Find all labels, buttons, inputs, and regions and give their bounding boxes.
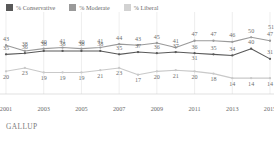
data-point: [193, 40, 195, 42]
legend-item-conservative[interactable]: % Conservative: [6, 4, 55, 11]
data-point: [99, 50, 101, 52]
x-axis-tick-2011: 2011: [188, 104, 200, 113]
data-label: 38: [41, 41, 47, 47]
data-point: [269, 40, 271, 42]
annotation-label: 51: [268, 24, 274, 30]
data-label: 50: [248, 28, 254, 34]
data-point: [137, 51, 139, 53]
data-label: 45: [154, 34, 160, 40]
data-label: 19: [60, 75, 66, 81]
data-label: 47: [267, 31, 273, 37]
data-point: [250, 48, 252, 50]
legend-label-conservative: % Conservative: [16, 4, 55, 11]
data-label: 34: [229, 46, 235, 52]
data-point: [212, 53, 214, 55]
data-point: [80, 50, 82, 52]
data-label: 36: [154, 44, 160, 50]
data-point: [61, 71, 63, 73]
data-point: [231, 41, 233, 43]
data-point: [80, 71, 82, 73]
data-point: [118, 53, 120, 55]
data-label: 23: [22, 70, 28, 76]
data-point: [269, 58, 271, 60]
x-axis-tick-2005: 2005: [75, 104, 87, 113]
data-point: [231, 54, 233, 56]
data-point: [43, 50, 45, 52]
data-label: 14: [267, 81, 273, 87]
data-label: 47: [210, 31, 216, 37]
data-point: [212, 40, 214, 42]
data-label: 14: [248, 81, 254, 87]
x-axis-tick-2015: 2015: [264, 104, 274, 113]
data-label: 36: [192, 44, 198, 50]
x-axis-tick-2013: 2013: [226, 104, 238, 113]
x-axis: 20012003200520072009201120132015: [0, 104, 274, 117]
data-label: 21: [97, 73, 103, 79]
annotation-label: 31: [192, 55, 198, 61]
data-label: 36: [22, 44, 28, 50]
data-point: [5, 53, 7, 55]
data-point: [5, 70, 7, 72]
data-label: 14: [229, 81, 235, 87]
data-point: [137, 74, 139, 76]
plot-area: 4338404140414443454147474650473536383838…: [0, 12, 274, 104]
data-point: [231, 77, 233, 79]
x-axis-tick-2001: 2001: [0, 104, 12, 113]
legend-swatch-conservative: [6, 4, 13, 11]
data-point: [80, 48, 82, 50]
data-label: 37: [135, 43, 141, 49]
data-label: 38: [60, 41, 66, 47]
data-label: 43: [135, 36, 141, 42]
data-label: 20: [3, 74, 9, 80]
data-label: 47: [192, 31, 198, 37]
data-point: [250, 77, 252, 79]
data-label: 23: [116, 70, 122, 76]
data-point: [156, 52, 158, 54]
data-label: 35: [210, 45, 216, 51]
data-label: 46: [229, 32, 235, 38]
data-label: 44: [116, 35, 122, 41]
data-point: [24, 50, 26, 52]
data-point: [24, 67, 26, 69]
data-label: 17: [135, 77, 141, 83]
data-label: 20: [154, 74, 160, 80]
x-axis-tick-2003: 2003: [38, 104, 50, 113]
legend-item-liberal[interactable]: % Liberal: [124, 4, 159, 11]
data-label: 43: [3, 36, 9, 42]
legend-item-moderate[interactable]: % Moderate: [69, 4, 109, 11]
legend-swatch-moderate: [69, 4, 76, 11]
source-attribution: GALLUP: [6, 122, 38, 131]
x-axis-tick-2009: 2009: [151, 104, 163, 113]
x-axis-tick-2007: 2007: [113, 104, 125, 113]
data-point: [99, 69, 101, 71]
data-point: [269, 77, 271, 79]
data-point: [175, 69, 177, 71]
data-point: [250, 36, 252, 38]
legend-swatch-liberal: [124, 4, 131, 11]
data-point: [118, 67, 120, 69]
data-label: 38: [78, 41, 84, 47]
data-point: [24, 52, 26, 54]
data-label: 38: [97, 41, 103, 47]
ideology-trend-chart: % Conservative % Moderate % Liberal 4338…: [0, 0, 274, 141]
data-label: 31: [267, 49, 273, 55]
data-label: 19: [41, 75, 47, 81]
data-point: [43, 48, 45, 50]
data-label: 18: [210, 76, 216, 82]
data-point: [43, 71, 45, 73]
data-label: 21: [173, 73, 179, 79]
legend-label-liberal: % Liberal: [134, 4, 159, 11]
data-label: 37: [173, 43, 179, 49]
data-point: [193, 70, 195, 72]
data-point: [156, 70, 158, 72]
data-point: [212, 72, 214, 74]
data-label: 20: [192, 74, 198, 80]
data-point: [175, 51, 177, 53]
plot-svg: 4338404140414443454147474650473536383838…: [0, 12, 274, 104]
data-label: 19: [78, 75, 84, 81]
data-label: 35: [3, 45, 9, 51]
data-label: 35: [116, 45, 122, 51]
legend-label-moderate: % Moderate: [79, 4, 109, 11]
data-point: [61, 50, 63, 52]
data-label: 40: [248, 39, 254, 45]
